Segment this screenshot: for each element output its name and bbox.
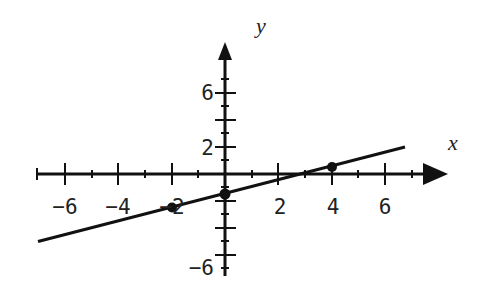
data-point [327,162,337,172]
x-tick-label: 4 [327,195,340,219]
x-tick-label: 2 [274,195,287,219]
x-tick-label: −6 [52,195,77,219]
x-tick-label: −4 [105,195,130,219]
y-tick-label: 2 [201,136,214,160]
y-tick-label: 6 [201,81,214,105]
y-tick-label: −6 [189,256,214,280]
coordinate-plane: −6 −4 −2 2 4 6 6 2 −6 x y [0,0,484,292]
x-axis [37,168,425,180]
x-axis-label: x [447,130,458,155]
y-axis-arrow-icon [218,42,232,60]
x-tick-label: −2 [159,195,184,219]
x-tick-label: 6 [379,195,392,219]
y-axis-label: y [254,13,266,38]
x-axis-arrow-icon [423,163,448,185]
data-point [220,189,231,200]
